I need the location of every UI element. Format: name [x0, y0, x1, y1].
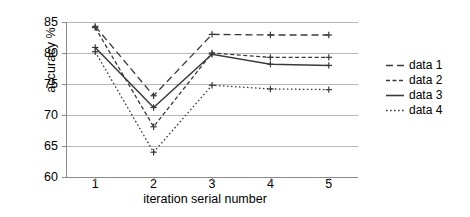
legend-line-swatch: [386, 90, 404, 100]
data-point-marker: [326, 86, 332, 92]
series-line-2: [95, 28, 329, 127]
legend-label: data 3: [409, 88, 442, 102]
series-line-4: [95, 52, 329, 152]
line-chart: accuracy % iteration serial number 60657…: [0, 0, 470, 217]
chart-legend: data 1data 2data 3data 4: [386, 57, 470, 117]
data-point-marker: [209, 82, 215, 88]
legend-item-1: data 1: [386, 57, 470, 72]
legend-item-3: data 3: [386, 87, 470, 102]
data-point-marker: [150, 149, 156, 155]
legend-line-swatch: [386, 105, 404, 115]
data-point-marker: [267, 32, 273, 38]
legend-label: data 4: [409, 103, 442, 117]
legend-line-swatch: [386, 60, 404, 70]
data-point-marker: [326, 62, 332, 68]
data-point-marker: [267, 54, 273, 60]
legend-item-4: data 4: [386, 102, 470, 117]
data-point-marker: [267, 86, 273, 92]
legend-item-2: data 2: [386, 72, 470, 87]
data-point-marker: [267, 61, 273, 67]
data-point-marker: [326, 54, 332, 60]
data-point-marker: [326, 32, 332, 38]
legend-line-swatch: [386, 75, 404, 85]
data-point-marker: [209, 31, 215, 37]
legend-label: data 1: [409, 58, 442, 72]
legend-label: data 2: [409, 73, 442, 87]
